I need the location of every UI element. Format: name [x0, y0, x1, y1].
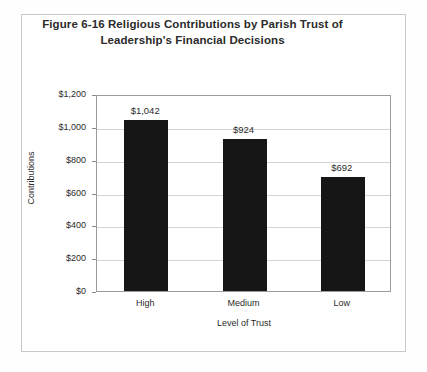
y-axis-tick-mark	[92, 161, 96, 162]
x-axis-tick-label-medium: Medium	[204, 298, 284, 308]
y-axis-tick-label: $400	[30, 220, 86, 230]
y-axis-tick-mark	[92, 259, 96, 260]
x-axis-title: Level of Trust	[96, 318, 392, 328]
y-axis-tick-label: $200	[30, 253, 86, 263]
y-axis-tick-mark	[92, 226, 96, 227]
bar-value-label-high: $1,042	[105, 105, 185, 116]
y-axis-tick-mark	[92, 128, 96, 129]
y-axis-tick-mark	[92, 95, 96, 96]
bar-value-label-low: $692	[302, 162, 382, 173]
figure-container: Figure 6-16 Religious Contributions by P…	[0, 0, 427, 372]
y-axis-tick-mark	[92, 194, 96, 195]
bar-medium	[223, 139, 267, 291]
chart-title-line-1: Figure 6-16 Religious Contributions by P…	[30, 16, 355, 32]
x-axis-tick-label-low: Low	[302, 298, 382, 308]
y-axis-tick-label: $1,200	[30, 89, 86, 99]
y-axis-tick-label: $0	[30, 286, 86, 296]
y-axis-tick-label: $1,000	[30, 122, 86, 132]
bar-low	[321, 177, 365, 291]
bar-value-label-medium: $924	[204, 124, 284, 135]
y-axis-tick-label: $800	[30, 155, 86, 165]
bar-high	[124, 120, 168, 291]
chart-title: Figure 6-16 Religious Contributions by P…	[30, 16, 355, 48]
y-axis-tick-mark	[92, 292, 96, 293]
chart-title-line-2: Leadership's Financial Decisions	[30, 32, 355, 48]
y-axis-tick-label: $600	[30, 188, 86, 198]
x-axis-tick-label-high: High	[105, 298, 185, 308]
